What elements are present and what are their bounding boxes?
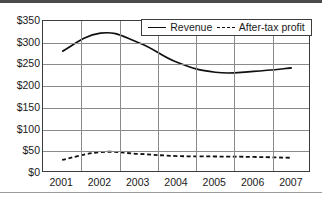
gridline-horizontal [43,86,309,87]
gridline-vertical [273,21,274,171]
gridline-vertical [120,21,121,171]
x-axis-tick-label: 2003 [118,177,158,188]
legend-label-after-tax-profit: After-tax profit [239,22,305,33]
x-axis-tick-label: 2006 [233,177,273,188]
gridline-vertical [81,21,82,171]
x-axis-tick-label: 2002 [79,177,119,188]
legend-entry-revenue: Revenue [148,22,212,33]
line-dashed-icon [217,27,235,28]
x-axis-tick-label: 2007 [271,177,311,188]
gridline-horizontal [43,43,309,44]
chart-legend: Revenue After-tax profit [141,19,312,36]
gridline-vertical [234,21,235,171]
legend-label-revenue: Revenue [170,22,212,33]
x-axis-tick-label: 2005 [194,177,234,188]
plot-area [42,20,310,172]
gridline-vertical [158,21,159,171]
series-line-after-tax-profit [62,152,292,160]
gridline-vertical [196,21,197,171]
x-axis-tick-label: 2001 [41,177,81,188]
gridline-horizontal [43,64,309,65]
gridline-horizontal [43,151,309,152]
chart-figure: $0$50$100$150$200$250$300$350 2001200220… [0,0,322,200]
series-line-revenue [62,33,292,73]
gridline-horizontal [43,108,309,109]
x-axis-tick-label: 2004 [156,177,196,188]
legend-entry-after-tax-profit: After-tax profit [217,22,305,33]
gridline-horizontal [43,130,309,131]
line-solid-icon [148,27,166,28]
